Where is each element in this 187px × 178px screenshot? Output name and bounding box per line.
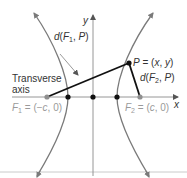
- d-f1-p-label: d(F1, P): [54, 31, 89, 45]
- focus-f1: [44, 94, 49, 99]
- d-f2-p-label: d(F2, P): [140, 72, 175, 86]
- x-axis-label: x: [174, 99, 179, 110]
- focus-f2: [137, 94, 142, 99]
- segment-f2-p: [129, 63, 140, 97]
- point-p-label: P = (x, y): [133, 57, 173, 68]
- vertex-right: [114, 94, 119, 99]
- transverse-axis-label: Transverse axis: [12, 73, 62, 95]
- focus-2-label: F2 = (c, 0): [125, 102, 169, 116]
- leader-line: [60, 54, 78, 75]
- right-branch: [117, 13, 153, 176]
- point-p: [126, 60, 131, 65]
- y-axis-label: y: [83, 15, 88, 26]
- origin-point: [90, 94, 95, 99]
- vertex-left: [65, 94, 70, 99]
- focus-1-label: F1 = (−c, 0): [12, 102, 62, 116]
